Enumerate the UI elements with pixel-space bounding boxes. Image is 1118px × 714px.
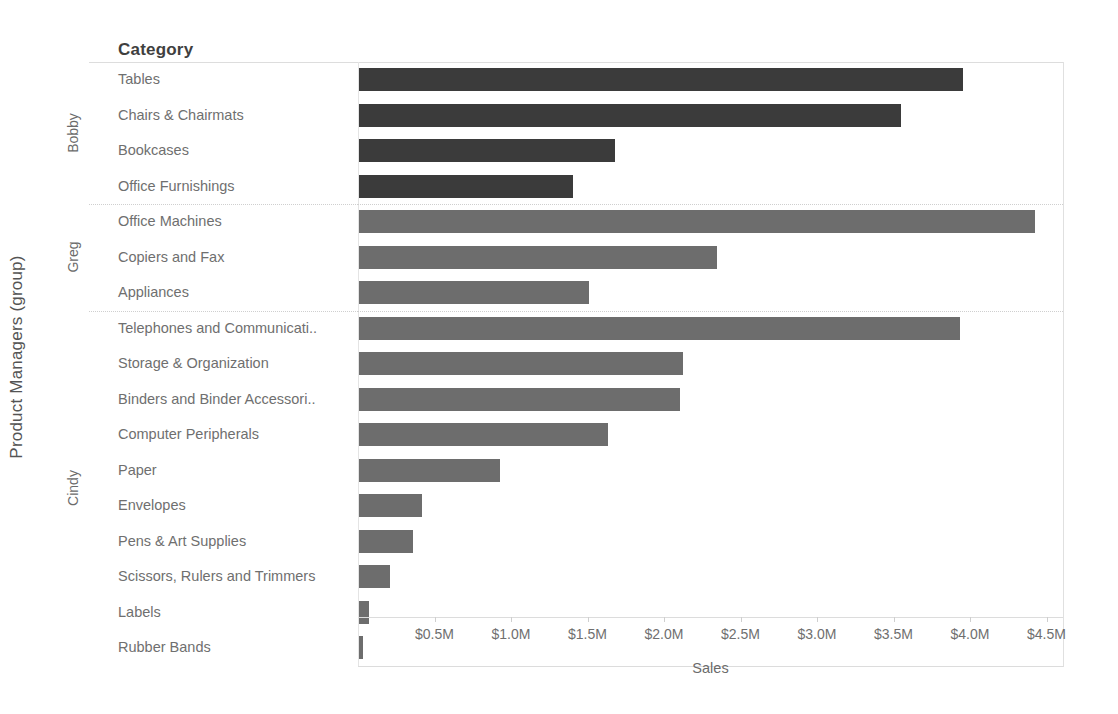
bar-row <box>358 275 1063 311</box>
x-tick <box>664 617 665 622</box>
bar[interactable] <box>359 459 500 482</box>
category-row: Paper <box>89 453 358 489</box>
x-tick <box>741 617 742 622</box>
bar[interactable] <box>359 352 683 375</box>
bar-row <box>358 382 1063 418</box>
x-tick <box>817 617 818 622</box>
x-tick-label: $4.5M <box>1027 626 1066 642</box>
bar[interactable] <box>359 388 680 411</box>
bar-row <box>358 453 1063 489</box>
x-tick <box>894 617 895 622</box>
x-tick <box>970 617 971 622</box>
category-row: Computer Peripherals <box>89 417 358 453</box>
category-label-column: TablesChairs & ChairmatsBookcasesOffice … <box>89 62 359 666</box>
group-label-text: Bobby <box>65 113 81 153</box>
x-axis: $0.5M$1.0M$1.5M$2.0M$2.5M$3.0M$3.5M$4.0M… <box>358 617 1063 618</box>
x-tick-label: $1.0M <box>492 626 531 642</box>
bar[interactable] <box>359 175 573 198</box>
bar-row <box>358 240 1063 276</box>
bar[interactable] <box>359 246 717 269</box>
category-row: Binders and Binder Accessori.. <box>89 382 358 418</box>
x-axis-title: Sales <box>358 660 1063 676</box>
category-row: Appliances <box>89 275 358 311</box>
x-tick <box>588 617 589 622</box>
category-header-row: Category <box>89 36 1063 63</box>
category-label: Appliances <box>118 275 189 311</box>
category-label: Paper <box>118 453 157 489</box>
category-label: Copiers and Fax <box>118 240 224 276</box>
category-label: Computer Peripherals <box>118 417 259 453</box>
category-label: Labels <box>118 595 161 631</box>
bar[interactable] <box>359 210 1035 233</box>
group-label-text: Cindy <box>65 470 81 506</box>
category-row: Telephones and Communicati.. <box>89 311 358 347</box>
bar-chart: Product Managers (group) BobbyGregCindy … <box>0 0 1118 714</box>
category-label: Pens & Art Supplies <box>118 524 246 560</box>
x-tick <box>511 617 512 622</box>
bar[interactable] <box>359 281 589 304</box>
bar-row <box>358 133 1063 169</box>
bar[interactable] <box>359 636 363 659</box>
category-row: Office Machines <box>89 204 358 240</box>
group-label-greg: Greg <box>57 204 89 311</box>
bar[interactable] <box>359 423 608 446</box>
bar[interactable] <box>359 139 615 162</box>
bar-row <box>358 311 1063 347</box>
category-label: Scissors, Rulers and Trimmers <box>118 559 315 595</box>
x-tick-label: $0.5M <box>415 626 454 642</box>
category-row: Scissors, Rulers and Trimmers <box>89 559 358 595</box>
group-label-text: Greg <box>65 242 81 273</box>
y-axis-title: Product Managers (group) <box>0 0 34 714</box>
bar-row <box>358 595 1063 631</box>
category-row: Tables <box>89 62 358 98</box>
category-label: Rubber Bands <box>118 630 211 666</box>
category-row: Copiers and Fax <box>89 240 358 276</box>
x-tick <box>1047 617 1048 622</box>
category-label: Tables <box>118 62 160 98</box>
category-row: Office Furnishings <box>89 169 358 205</box>
bar-row <box>358 346 1063 382</box>
category-row: Chairs & Chairmats <box>89 98 358 134</box>
category-label: Office Furnishings <box>118 169 235 205</box>
bar[interactable] <box>359 601 369 624</box>
group-label-cindy: Cindy <box>57 311 89 666</box>
x-tick <box>435 617 436 622</box>
bar-row <box>358 62 1063 98</box>
bar-row <box>358 204 1063 240</box>
category-row: Labels <box>89 595 358 631</box>
bar-row <box>358 559 1063 595</box>
plot-area <box>358 62 1064 667</box>
category-row: Envelopes <box>89 488 358 524</box>
bar[interactable] <box>359 565 390 588</box>
bar[interactable] <box>359 494 422 517</box>
category-label: Telephones and Communicati.. <box>118 311 317 347</box>
bar[interactable] <box>359 68 963 91</box>
x-tick-label: $2.0M <box>645 626 684 642</box>
group-label-bobby: Bobby <box>57 62 89 204</box>
x-tick-label: $3.5M <box>874 626 913 642</box>
category-row: Pens & Art Supplies <box>89 524 358 560</box>
category-label: Envelopes <box>118 488 186 524</box>
bar-row <box>358 169 1063 205</box>
group-label-column: BobbyGregCindy <box>57 62 89 666</box>
x-tick-label: $2.5M <box>721 626 760 642</box>
category-row: Bookcases <box>89 133 358 169</box>
category-label: Bookcases <box>118 133 189 169</box>
bar[interactable] <box>359 317 960 340</box>
bar[interactable] <box>359 104 901 127</box>
category-row: Rubber Bands <box>89 630 358 666</box>
category-row: Storage & Organization <box>89 346 358 382</box>
category-label: Office Machines <box>118 204 222 240</box>
bar-row <box>358 524 1063 560</box>
x-tick-label: $3.0M <box>798 626 837 642</box>
category-label: Chairs & Chairmats <box>118 98 244 134</box>
bar[interactable] <box>359 530 413 553</box>
bar-row <box>358 488 1063 524</box>
bar-row <box>358 417 1063 453</box>
category-label: Storage & Organization <box>118 346 269 382</box>
x-tick-label: $1.5M <box>568 626 607 642</box>
x-tick-label: $4.0M <box>951 626 990 642</box>
category-label: Binders and Binder Accessori.. <box>118 382 315 418</box>
bar-row <box>358 98 1063 134</box>
category-header-label: Category <box>118 40 193 60</box>
